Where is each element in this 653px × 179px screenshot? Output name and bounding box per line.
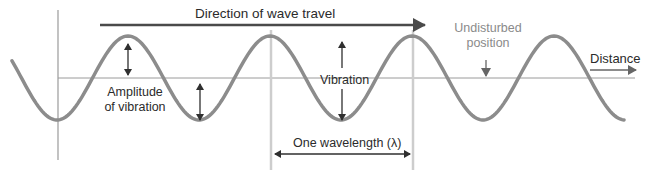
undisturbed-position-label: Undisturbed position bbox=[453, 21, 523, 51]
wavelength-label: One wavelength (λ) bbox=[293, 136, 401, 151]
distance-label: Distance bbox=[590, 51, 641, 66]
amplitude-label: Amplitude of vibration bbox=[100, 85, 170, 115]
undisturbed-label-line2: position bbox=[453, 36, 523, 51]
direction-label: Direction of wave travel bbox=[195, 6, 335, 21]
undisturbed-label-line1: Undisturbed bbox=[453, 21, 523, 36]
wave-diagram bbox=[0, 0, 653, 179]
amplitude-label-line2: of vibration bbox=[100, 100, 170, 115]
amplitude-label-line1: Amplitude bbox=[100, 85, 170, 100]
vibration-label: Vibration bbox=[320, 73, 369, 88]
